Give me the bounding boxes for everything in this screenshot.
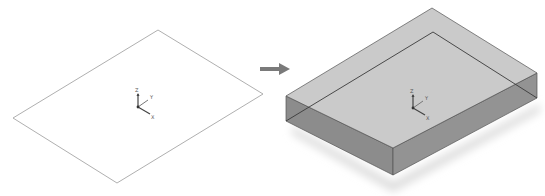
- arrow-head: [279, 63, 290, 75]
- triad-z-label: Z: [135, 87, 139, 93]
- arrow-shaft: [260, 67, 280, 71]
- triad-z-label: Z: [410, 88, 414, 94]
- triad-x-label: X: [151, 114, 155, 120]
- triad-x-label: X: [426, 115, 430, 121]
- extrude-arrow: [260, 63, 290, 75]
- triad-origin: [137, 106, 140, 109]
- triad-origin: [412, 107, 415, 110]
- diagram-canvas: Z Y X Z Y X: [0, 0, 545, 196]
